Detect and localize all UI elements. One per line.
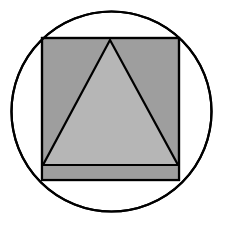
geometric-figure	[0, 0, 225, 225]
figure-canvas	[0, 0, 225, 225]
base-band-shape	[42, 165, 179, 180]
